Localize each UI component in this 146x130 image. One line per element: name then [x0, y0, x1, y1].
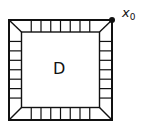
region-label: D: [53, 61, 65, 77]
point-label-subscript: 0: [130, 12, 136, 22]
point-label: x0: [122, 6, 135, 24]
point-x0-dot: [109, 17, 115, 23]
point-label-base: x: [122, 5, 130, 20]
corner-diagonal-br: [100, 108, 113, 121]
corner-diagonal-bl: [9, 108, 22, 121]
corner-diagonal-tl: [9, 20, 22, 32]
